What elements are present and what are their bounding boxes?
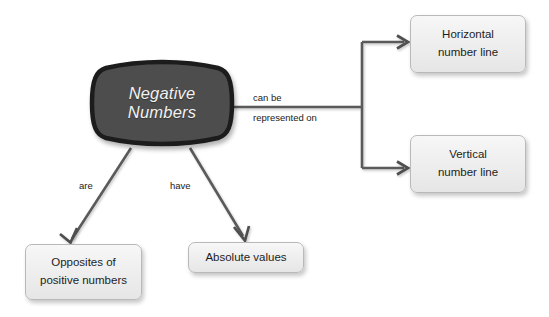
edge-label-represented-on: represented on: [253, 112, 317, 123]
connector-to-opposites: [72, 148, 131, 239]
arrowhead-opposites: [60, 228, 77, 243]
node-horizontal-number-line[interactable]: Horizontal number line: [410, 15, 526, 73]
node-label-line2: positive numbers: [40, 272, 127, 290]
center-node-label-line1: Negative: [129, 84, 196, 103]
concept-map-diagram: Negative Numbers Horizontal number line …: [0, 0, 549, 317]
node-label-line2: number line: [438, 164, 498, 182]
edge-label-are: are: [79, 180, 93, 191]
edge-label-can-be: can be: [253, 92, 282, 103]
center-node-label-line2: Numbers: [128, 103, 196, 122]
node-vertical-number-line[interactable]: Vertical number line: [410, 135, 526, 193]
node-label-line2: number line: [438, 44, 498, 62]
center-node-label: Negative Numbers: [88, 58, 236, 148]
node-label-line1: Absolute values: [205, 249, 286, 267]
connector-to-absolute: [190, 148, 243, 236]
node-opposites-of-positive-numbers[interactable]: Opposites of positive numbers: [25, 244, 142, 300]
edge-label-have: have: [170, 180, 191, 191]
node-label-line1: Opposites of: [51, 254, 116, 272]
center-node-negative-numbers[interactable]: Negative Numbers: [88, 58, 236, 148]
node-absolute-values[interactable]: Absolute values: [188, 242, 304, 273]
node-label-line1: Horizontal: [442, 26, 494, 44]
node-label-line1: Vertical: [449, 146, 487, 164]
